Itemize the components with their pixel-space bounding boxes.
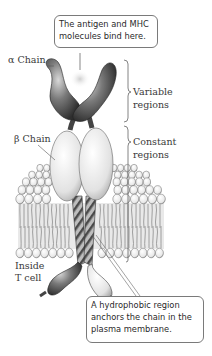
- lipid-head: [32, 248, 40, 258]
- variable-bracket: [124, 60, 131, 122]
- lipid-head: [148, 194, 156, 204]
- lipid-head: [26, 186, 34, 195]
- lipid-head: [147, 248, 155, 258]
- lipid-head: [44, 164, 50, 171]
- label-variable-line-1: Variable: [133, 86, 173, 98]
- lipid-head: [138, 186, 146, 195]
- lipid-head: [30, 178, 37, 186]
- callout-binding-site: The antigen and MHC molecules bind here.: [54, 15, 158, 48]
- lipid-head: [131, 164, 137, 171]
- lipid-head: [157, 194, 165, 204]
- lipid-head: [113, 194, 121, 204]
- lipid-head: [130, 194, 138, 204]
- callout-hydrophobic-line-2: anchors the chain in the: [91, 311, 199, 323]
- lipid-head: [16, 248, 24, 258]
- lipid-head: [65, 248, 73, 258]
- lipid-head: [128, 178, 135, 186]
- lipid-head: [121, 178, 128, 186]
- lipid-head: [136, 178, 143, 186]
- label-inside-line-1: Inside: [15, 260, 45, 272]
- lipid-head: [33, 194, 41, 204]
- callout-hydrophobic-region: A hydrophobic region anchors the chain i…: [86, 296, 204, 343]
- callout-binding-line-1: The antigen and MHC: [59, 18, 153, 30]
- cytoplasmic-tails: [40, 262, 116, 300]
- label-constant-line-2: regions: [133, 149, 169, 161]
- lipid-head: [113, 178, 120, 186]
- lipid-head: [154, 186, 162, 195]
- lipid-head: [41, 248, 49, 258]
- lipid-head: [114, 171, 121, 179]
- lipid-head: [37, 164, 43, 171]
- lipid-head: [114, 248, 122, 258]
- label-variable-line-2: regions: [133, 99, 169, 111]
- lipid-head: [16, 194, 24, 204]
- lipid-head: [130, 186, 138, 195]
- lipid-head: [124, 164, 130, 171]
- callout-hydrophobic-line-1: A hydrophobic region: [91, 299, 199, 311]
- lipid-head: [42, 194, 50, 204]
- lipid-head: [38, 178, 45, 186]
- lipid-head: [146, 186, 154, 195]
- label-beta-chain: β Chain: [14, 133, 51, 145]
- lipid-head: [42, 186, 50, 195]
- lipid-head: [25, 194, 33, 204]
- label-inside-line-2: T cell: [15, 272, 41, 284]
- lipid-head: [122, 194, 130, 204]
- label-constant-line-1: Constant: [133, 136, 176, 148]
- lipid-head: [139, 194, 147, 204]
- variable-domains: [46, 59, 116, 122]
- callout-hydrophobic-line-3: plasma membrane.: [91, 323, 199, 335]
- lipid-head: [34, 186, 42, 195]
- lipid-head: [18, 186, 26, 195]
- lipid-head: [49, 248, 57, 258]
- lipid-head: [114, 186, 122, 195]
- lipid-head: [24, 248, 32, 258]
- lipid-head: [131, 248, 139, 258]
- callout-binding-line-2: molecules bind here.: [59, 30, 153, 42]
- binding-site: [70, 70, 90, 88]
- lipid-head: [143, 178, 150, 186]
- lipid-head: [117, 164, 123, 171]
- label-alpha-chain: α Chain: [8, 54, 46, 66]
- lipid-head: [155, 248, 163, 258]
- lipid-head: [57, 248, 65, 258]
- lipid-head: [123, 248, 131, 258]
- lipid-head: [139, 248, 147, 258]
- constant-domains: [50, 128, 113, 201]
- lipid-head: [22, 178, 29, 186]
